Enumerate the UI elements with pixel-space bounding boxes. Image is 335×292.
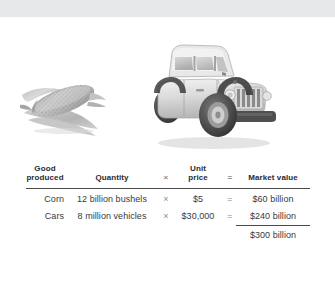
cell-unit-price-cars: $30,000 [172,208,224,226]
jeep-photo [138,27,284,157]
cell-quantity-corn: 12 billion bushels [64,188,160,208]
top-gray-band [0,0,335,17]
times-icon: × [163,211,168,221]
header-unit-line1: Unit [190,164,206,173]
equals-icon: = [227,194,232,204]
cell-total-spacer-equals [224,226,236,245]
header-good-line2: produced [26,173,63,182]
cell-good-cars: Cars [26,208,64,226]
table-header-row: Good produced Quantity × Unit price = Ma… [26,164,310,188]
cell-total-market-value: $300 billion [236,226,310,245]
header-unit-line2: price [188,173,208,182]
header-quantity: Quantity [64,164,160,188]
corn-photo [18,65,108,137]
cell-times-corn: × [160,188,172,208]
table-row: Cars 8 million vehicles × $30,000 = $240… [26,208,310,226]
table-total-row: $300 billion [26,226,310,245]
gdp-table: Good produced Quantity × Unit price = Ma… [26,164,310,245]
cell-equals-cars: = [224,208,236,226]
cell-times-cars: × [160,208,172,226]
cell-total-spacer-times [160,226,172,245]
header-good-line1: Good [34,164,55,173]
front-wheel [199,93,237,137]
equals-icon: = [228,173,233,182]
gdp-figure: Good produced Quantity × Unit price = Ma… [0,0,335,292]
cell-market-value-cars: $240 billion [236,208,310,226]
gdp-table-wrapper: Good produced Quantity × Unit price = Ma… [0,164,335,245]
header-good-produced: Good produced [26,164,64,188]
times-icon: × [164,173,169,182]
cell-equals-corn: = [224,188,236,208]
header-market-value: Market value [236,164,310,188]
cell-quantity-cars: 8 million vehicles [64,208,160,226]
header-unit-price: Unit price [172,164,224,188]
cell-market-value-corn: $60 billion [236,188,310,208]
equals-icon: = [227,211,232,221]
cell-total-spacer-quantity [64,226,160,245]
illustration-area [0,17,335,162]
cell-total-spacer-good [26,226,64,245]
header-equals-symbol: = [224,164,236,188]
header-times-symbol: × [160,164,172,188]
cell-good-corn: Corn [26,188,64,208]
cell-total-spacer-price [172,226,224,245]
table-row: Corn 12 billion bushels × $5 = $60 billi… [26,188,310,208]
cell-unit-price-corn: $5 [172,188,224,208]
times-icon: × [163,194,168,204]
